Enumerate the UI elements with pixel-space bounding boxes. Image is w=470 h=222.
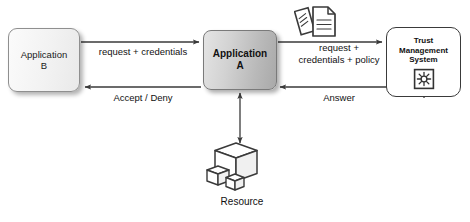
application-a-label-line1: Application	[213, 48, 267, 60]
edge-label-line2: credentials + policy	[287, 54, 391, 66]
cubes-icon	[206, 140, 274, 196]
edge-label-request-credentials-policy: request + credentials + policy	[287, 42, 391, 65]
tms-label-group: Trust Management System	[399, 36, 448, 64]
tms-label-line3: System	[399, 55, 448, 64]
resource-label: Resource	[196, 196, 288, 208]
node-application-a[interactable]: Application A	[203, 30, 277, 90]
diagram-canvas: Application B Application A Trust Manage…	[0, 0, 470, 222]
application-b-label-line2: B	[41, 60, 47, 71]
node-trust-management-system[interactable]: Trust Management System	[386, 27, 461, 97]
starburst-badge-icon	[413, 68, 435, 90]
edge-label-request-credentials: request + credentials	[84, 46, 202, 58]
tms-label-line1: Trust	[399, 36, 448, 45]
application-a-label-line2: A	[236, 60, 243, 72]
tms-label-line2: Management	[399, 46, 448, 55]
application-b-label-line1: Application	[21, 49, 67, 60]
edge-label-answer: Answer	[287, 92, 391, 104]
node-application-b[interactable]: Application B	[8, 28, 80, 92]
edge-label-accept-deny: Accept / Deny	[84, 92, 202, 104]
documents-icon	[294, 2, 340, 42]
edge-label-line1: request +	[287, 42, 391, 54]
